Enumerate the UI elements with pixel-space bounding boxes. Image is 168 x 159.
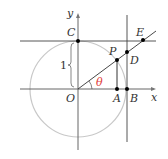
label-P: P: [108, 45, 117, 58]
point-C: [76, 39, 80, 43]
x-axis-label: x: [151, 91, 158, 104]
unit-circle-diagram: y x C O P D E A B 1 θ: [0, 0, 168, 159]
y-axis-arrow-icon: [76, 13, 80, 18]
point-P: [115, 58, 119, 62]
label-theta: θ: [96, 76, 103, 89]
label-C: C: [67, 26, 76, 39]
y-axis-label: y: [66, 7, 74, 20]
point-D: [125, 50, 129, 54]
label-E: E: [135, 26, 144, 39]
label-O: O: [66, 92, 75, 105]
label-A: A: [112, 92, 121, 105]
label-D: D: [129, 54, 139, 67]
point-A: [115, 87, 119, 91]
angle-arc: [89, 81, 92, 89]
radius-brace: [68, 43, 74, 87]
label-B: B: [129, 92, 138, 105]
label-radius: 1: [60, 59, 67, 72]
point-B: [125, 87, 129, 91]
